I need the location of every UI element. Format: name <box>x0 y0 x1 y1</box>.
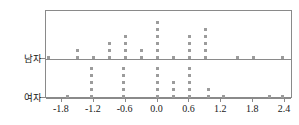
y-tick-female <box>41 97 45 98</box>
x-tick-2 <box>125 98 126 102</box>
data-point <box>122 81 125 84</box>
data-point <box>108 49 111 52</box>
data-point <box>172 95 175 98</box>
data-point <box>188 74 191 77</box>
data-point <box>66 95 69 98</box>
x-tick-3 <box>157 98 158 102</box>
x-tick-label-3: 0.0 <box>150 103 163 114</box>
plot-area <box>45 10 292 98</box>
data-point <box>268 95 271 98</box>
data-point <box>124 56 127 59</box>
data-point <box>156 56 159 59</box>
data-point <box>204 49 207 52</box>
x-tick-label-2: -0.6 <box>117 103 133 114</box>
data-point <box>188 88 191 91</box>
data-point <box>188 49 191 52</box>
data-point <box>90 67 93 70</box>
data-point <box>156 49 159 52</box>
data-point <box>156 35 159 38</box>
data-point <box>252 56 255 59</box>
x-tick-label-1: -1.2 <box>85 103 101 114</box>
data-point <box>188 81 191 84</box>
data-point <box>204 28 207 31</box>
data-point <box>108 56 111 59</box>
x-tick-label-5: 1.2 <box>214 103 227 114</box>
x-tick-6 <box>252 98 253 102</box>
x-tick-4 <box>188 98 189 102</box>
x-tick-0 <box>61 98 62 102</box>
x-tick-7 <box>284 98 285 102</box>
data-point <box>156 67 159 70</box>
x-tick-1 <box>93 98 94 102</box>
data-point <box>204 35 207 38</box>
data-point <box>122 88 125 91</box>
data-point <box>207 88 210 91</box>
data-point <box>222 95 225 98</box>
baseline-male <box>46 59 291 60</box>
data-point <box>92 56 95 59</box>
data-point <box>188 42 191 45</box>
data-point <box>90 74 93 77</box>
data-point <box>207 95 210 98</box>
data-point <box>188 56 191 59</box>
data-point <box>204 42 207 45</box>
data-point <box>172 81 175 84</box>
data-point <box>47 56 50 59</box>
data-point <box>140 56 143 59</box>
data-point <box>156 81 159 84</box>
dot-plot-chart: 남자여자 -1.8-1.2-0.60.00.61.21.82.4 <box>0 0 299 125</box>
data-point <box>236 56 239 59</box>
data-point <box>124 42 127 45</box>
data-point <box>90 88 93 91</box>
x-tick-5 <box>220 98 221 102</box>
y-tick-male <box>41 58 45 59</box>
baseline-female <box>46 98 291 99</box>
data-point <box>76 56 79 59</box>
data-point <box>204 56 207 59</box>
y-axis-labels: 남자여자 <box>0 10 42 98</box>
data-point <box>124 49 127 52</box>
data-point <box>172 88 175 91</box>
data-point <box>156 74 159 77</box>
data-point <box>156 28 159 31</box>
data-point <box>156 42 159 45</box>
data-point <box>140 49 143 52</box>
x-tick-label-6: 1.8 <box>246 103 259 114</box>
data-point <box>124 35 127 38</box>
data-point <box>122 67 125 70</box>
y-axis-label-female: 여자 <box>2 90 42 104</box>
data-point <box>76 49 79 52</box>
data-point <box>156 88 159 91</box>
y-axis-label-male: 남자 <box>2 51 42 65</box>
x-tick-label-7: 2.4 <box>278 103 291 114</box>
data-point <box>108 42 111 45</box>
data-point <box>90 81 93 84</box>
data-point <box>122 74 125 77</box>
data-point <box>172 56 175 59</box>
data-point <box>188 35 191 38</box>
x-tick-label-0: -1.8 <box>53 103 69 114</box>
x-tick-label-4: 0.6 <box>182 103 195 114</box>
data-point <box>188 67 191 70</box>
data-point <box>156 21 159 24</box>
data-point <box>281 56 284 59</box>
